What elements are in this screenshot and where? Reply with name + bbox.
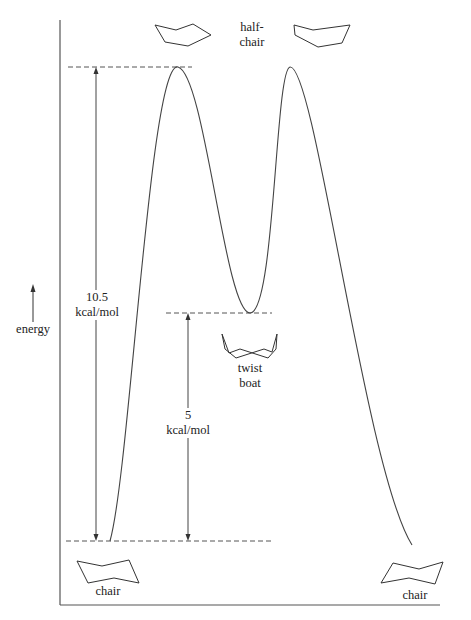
chair-left-icon — [77, 560, 139, 583]
twist-boat-label: twist boat — [220, 361, 280, 391]
up-arrow-icon — [31, 284, 36, 322]
half-chair-label: half- chair — [222, 20, 282, 50]
half-chair-left-icon — [155, 24, 211, 46]
twist-boat-label-line2: boat — [220, 376, 280, 391]
chair-right-icon — [381, 562, 443, 584]
half-chair-right-icon — [294, 25, 350, 47]
half-chair-label-line2: chair — [222, 35, 282, 50]
chair-left-label: chair — [88, 584, 128, 599]
energy-curve — [110, 67, 412, 545]
half-chair-label-line1: half- — [222, 20, 282, 35]
chair-right-label: chair — [395, 588, 435, 603]
gap-5-value: 5 — [158, 408, 218, 423]
gap-10-5-label: 10.5 kcal/mol — [68, 290, 126, 320]
twist-boat-icon — [222, 334, 277, 358]
energy-axis-label: energy — [8, 322, 58, 337]
gap-10-5-value: 10.5 — [68, 290, 126, 305]
gap-10-5-unit: kcal/mol — [68, 305, 126, 320]
gap-5-unit: kcal/mol — [158, 423, 218, 438]
twist-boat-label-line1: twist — [220, 361, 280, 376]
gap-5-label: 5 kcal/mol — [158, 408, 218, 438]
